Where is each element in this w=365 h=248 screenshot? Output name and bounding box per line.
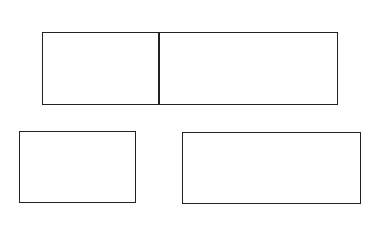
combined-dot-array-box	[42, 32, 338, 105]
group-divider-line	[158, 32, 160, 105]
dot-array-box-2x5	[182, 132, 361, 204]
dot-array-box-2x3	[19, 131, 136, 203]
